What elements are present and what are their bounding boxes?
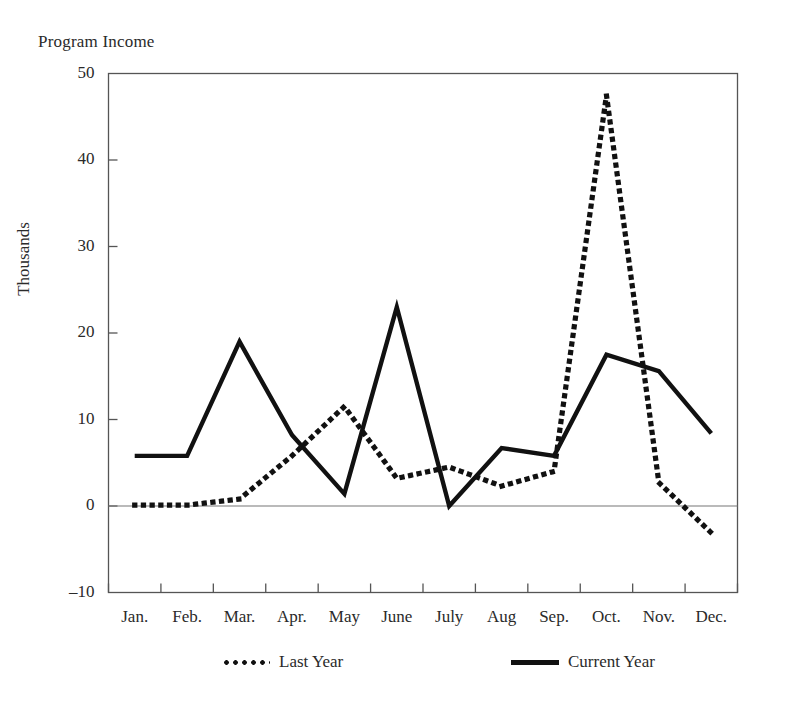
y-tick-label: 40 <box>43 149 95 169</box>
plot-frame <box>109 74 738 593</box>
legend-label-last-year: Last Year <box>279 652 343 672</box>
y-tick-label: –10 <box>43 582 95 602</box>
x-tick-label: Dec. <box>671 607 751 627</box>
solid-line-swatch-icon <box>511 660 559 665</box>
series-line-current-year <box>135 307 712 506</box>
series-line-last-year <box>135 95 712 533</box>
y-tick-label: 30 <box>43 236 95 256</box>
y-tick-label: 50 <box>43 63 95 83</box>
legend-label-current-year: Current Year <box>568 652 655 672</box>
series-lines <box>135 95 712 533</box>
x-axis-ticks <box>109 584 738 593</box>
chart-legend: Last Year Current Year <box>0 652 806 692</box>
y-tick-label: 0 <box>43 495 95 515</box>
y-axis-ticks <box>109 160 118 506</box>
dotted-line-swatch-icon <box>222 660 270 665</box>
y-tick-label: 20 <box>43 322 95 342</box>
chart-title: Program Income <box>38 32 155 52</box>
y-tick-label: 10 <box>43 409 95 429</box>
chart-figure: Program Income Thousands –1001020304050 … <box>0 0 806 713</box>
legend-item-last-year: Last Year <box>222 652 343 672</box>
legend-item-current-year: Current Year <box>511 652 655 672</box>
y-axis-label: Thousands <box>14 169 34 349</box>
